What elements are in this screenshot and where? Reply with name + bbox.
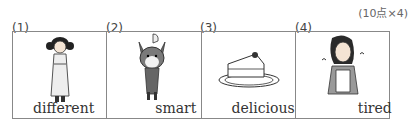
word-label: different bbox=[33, 100, 94, 116]
word-label: smart bbox=[155, 100, 196, 116]
cake-slice-icon bbox=[216, 50, 282, 90]
points-label: (10点×4) bbox=[358, 4, 408, 20]
cell-4: tired bbox=[296, 32, 389, 118]
word-label: delicious bbox=[232, 100, 295, 116]
cell-2: smart bbox=[107, 32, 201, 118]
word-label: tired bbox=[358, 100, 392, 116]
girl-in-kimono-icon bbox=[43, 34, 77, 106]
tired-woman-icon bbox=[318, 34, 368, 102]
shiba-dog-icon bbox=[135, 32, 169, 104]
cell-3: delicious bbox=[202, 32, 296, 118]
picture-grid: different smart delicious bbox=[12, 31, 390, 119]
cell-1: different bbox=[13, 32, 107, 118]
